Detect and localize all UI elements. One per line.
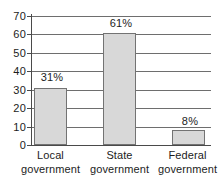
- y-tick-label-60: 60: [2, 29, 26, 40]
- y-tick-label-70: 70: [2, 11, 26, 22]
- y-axis-line: [31, 14, 32, 146]
- y-tick-label-10: 10: [2, 122, 26, 133]
- y-tick-label-50: 50: [2, 48, 26, 59]
- bar-local-government: [34, 88, 67, 145]
- x-category-label-federal-government: Federal government: [137, 148, 221, 176]
- y-tick-label-30: 30: [2, 85, 26, 96]
- data-label-state-government: 61%: [91, 18, 151, 29]
- data-label-federal-government: 8%: [160, 116, 220, 127]
- x-category-label-federal-government-line1: Federal: [137, 148, 221, 162]
- bar-federal-government: [172, 130, 205, 145]
- bar-state-government: [103, 33, 136, 145]
- x-axis-line: [31, 145, 211, 146]
- y-tick-label-20: 20: [2, 103, 26, 114]
- bar-chart: 70 60 50 40 30 20 10 0 31% 61% 8% Local: [0, 0, 221, 183]
- x-category-label-federal-government-line2: government: [137, 162, 221, 176]
